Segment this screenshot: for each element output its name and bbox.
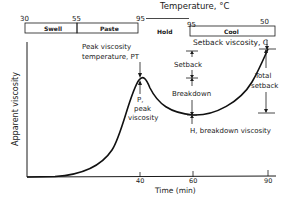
total-setback-bottom-arrowhead (264, 109, 268, 113)
hold-label: Hold (157, 28, 173, 35)
total-setback-label-line1: Total (254, 72, 271, 80)
setback-label: Setback (174, 61, 203, 69)
temp-mark-50: 50 (260, 18, 269, 26)
total-setback-label-line2: setback (251, 82, 279, 90)
viscosity-curve (27, 49, 268, 177)
cool-label: Cool (224, 28, 239, 35)
setback-bottom-arrowhead (190, 75, 194, 78)
paste-label: Paste (100, 25, 119, 32)
viscosity-profile-diagram: Temperature, °C 30 55 95 95 50 Swell Pas… (0, 0, 297, 203)
temperature-title: Temperature, °C (159, 1, 229, 11)
temp-mark-30: 30 (20, 15, 29, 23)
peak-label-line2: peak (134, 105, 152, 113)
setback-viscosity-label: Setback viscosity, C (193, 38, 268, 47)
y-axis-label: Apparent viscosity (11, 72, 20, 146)
swell-label: Swell (44, 25, 62, 32)
peak-temp-label-line2: temperature, PT (82, 53, 140, 61)
breakdown-top-arrowhead (190, 78, 194, 81)
breakdown-viscosity-label: H, breakdown viscosity (190, 127, 271, 135)
x-tick-label-40: 40 (136, 177, 144, 185)
setback-top-arrowhead (190, 51, 194, 54)
temp-mark-55: 55 (72, 15, 81, 23)
x-axis-label: Time (min) (154, 186, 196, 195)
peak-temp-label-line1: Peak viscosity (82, 43, 131, 51)
breakdown-label: Breakdown (172, 90, 211, 98)
temp-mark-95-start: 95 (136, 15, 145, 23)
x-tick-label-90: 90 (264, 177, 272, 185)
x-tick-label-60: 60 (189, 177, 197, 185)
temp-mark-95-end: 95 (187, 21, 196, 29)
peak-label-line3: viscosity (128, 114, 158, 122)
peak-label-line1: P, (137, 96, 143, 104)
